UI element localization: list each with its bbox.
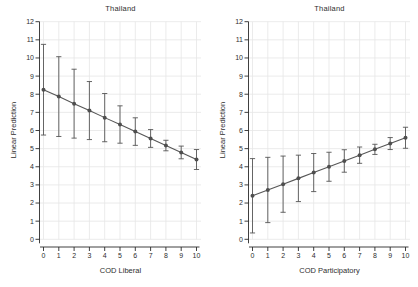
y-tick-label: 10 [235,54,243,61]
x-tick-label: 7 [149,252,153,259]
y-tick-label: 12 [26,18,34,25]
data-point [404,136,408,140]
x-tick-label: 6 [133,252,137,259]
x-tick-label: 7 [358,252,362,259]
gridlines [249,22,411,240]
data-point [103,116,107,120]
y-tick-label: 0 [239,236,243,243]
y-tick-label: 5 [239,145,243,152]
y-tick-label: 9 [30,73,34,80]
data-point [195,158,199,162]
x-axis-title: COD Participatory [249,266,410,275]
x-tick-labels: 012345678910 [251,252,410,259]
data-point [164,144,168,148]
y-tick-label: 8 [30,91,34,98]
data-point [327,165,331,169]
data-point [57,95,61,99]
x-tick-label: 3 [87,252,91,259]
y-tick-label: 2 [239,199,243,206]
y-tick-label: 6 [30,127,34,134]
x-tick-label: 8 [164,252,168,259]
y-tick-label: 8 [239,91,243,98]
y-tick-label: 9 [239,73,243,80]
x-tick-label: 2 [72,252,76,259]
x-tick-label: 4 [312,252,316,259]
data-point [296,176,300,180]
y-tick-label: 5 [30,145,34,152]
data-point [342,159,346,163]
y-tick-labels: 0123456789101112 [26,18,34,243]
x-tick-label: 5 [327,252,331,259]
data-point [266,188,270,192]
y-tick-labels: 0123456789101112 [235,18,243,243]
data-point [72,102,76,106]
x-axis [249,247,409,251]
y-tick-label: 12 [235,18,243,25]
y-tick-label: 7 [30,109,34,116]
x-tick-label: 0 [42,252,46,259]
x-tick-label: 9 [388,252,392,259]
x-tick-label: 3 [296,252,300,259]
x-tick-labels: 012345678910 [42,252,201,259]
data-point [42,88,46,92]
figure-row: Thailand Linear Prediction 0123456789101… [0,0,418,287]
y-tick-label: 0 [30,236,34,243]
x-tick-label: 8 [373,252,377,259]
data-point [281,182,285,186]
x-tick-label: 6 [342,252,346,259]
x-axis-title: COD Liberal [40,266,201,275]
x-tick-label: 10 [193,252,201,259]
y-tick-label: 3 [30,181,34,188]
x-tick-label: 9 [179,252,183,259]
y-axis [245,22,249,244]
data-point [388,142,392,146]
y-tick-label: 11 [236,36,243,43]
data-point [251,194,255,198]
data-point [358,153,362,157]
y-tick-label: 4 [30,163,34,170]
x-tick-label: 1 [266,252,270,259]
data-point [133,130,137,134]
x-axis [40,247,200,251]
y-tick-label: 3 [239,181,243,188]
data-point [149,136,153,140]
x-tick-label: 1 [57,252,61,259]
y-tick-label: 6 [239,127,243,134]
data-point [118,123,122,127]
x-tick-label: 10 [402,252,410,259]
y-tick-label: 11 [27,36,34,43]
x-tick-label: 0 [251,252,255,259]
chart-cod-participatory: Thailand Linear Prediction 0123456789101… [209,0,418,287]
x-tick-label: 2 [281,252,285,259]
plot-area-cod-participatory: 0123456789101112012345678910 [209,0,418,287]
data-point [179,150,183,154]
y-tick-label: 10 [26,54,34,61]
x-tick-label: 4 [103,252,107,259]
y-axis [36,22,40,244]
x-tick-label: 5 [118,252,122,259]
y-tick-label: 7 [239,109,243,116]
chart-cod-liberal: Thailand Linear Prediction 0123456789101… [0,0,209,287]
y-tick-label: 2 [30,199,34,206]
plot-area-cod-liberal: 0123456789101112012345678910 [0,0,209,287]
y-tick-label: 1 [239,218,243,225]
y-tick-label: 4 [239,163,243,170]
data-point [87,109,91,113]
y-tick-label: 1 [30,218,34,225]
data-point [373,147,377,151]
data-point [312,171,316,175]
